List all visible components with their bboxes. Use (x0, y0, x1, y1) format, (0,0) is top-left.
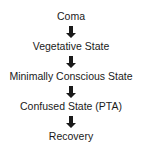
arrow-down-icon (66, 116, 76, 128)
arrow-down-icon (66, 56, 76, 68)
recovery-flow-diagram: Coma Vegetative State Minimally Consciou… (0, 10, 142, 143)
step-recovery: Recovery (49, 130, 93, 143)
step-minimally-conscious-state: Minimally Conscious State (9, 70, 132, 83)
step-vegetative-state: Vegetative State (33, 40, 109, 53)
arrow-down-icon (66, 86, 76, 98)
step-confused-state: Confused State (PTA) (20, 100, 122, 113)
arrow-down-icon (66, 26, 76, 38)
step-coma: Coma (57, 10, 85, 23)
